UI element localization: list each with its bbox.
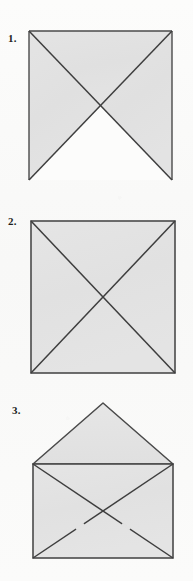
step-2: 2.: [0, 190, 193, 380]
step-2-figure: [0, 190, 193, 380]
step-3: 3.: [0, 380, 193, 581]
step-3-flap-panel: [33, 403, 173, 464]
step-1: 1.: [0, 0, 193, 190]
step-3-figure: [0, 380, 193, 581]
step-1-figure: [0, 0, 193, 190]
